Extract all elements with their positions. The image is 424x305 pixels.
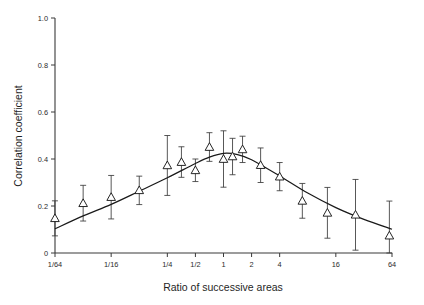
y-tick-label: 1.0	[38, 14, 48, 23]
chart-figure: 1.00.80.60.40.20 1/641/161/41/21241664 R…	[0, 0, 424, 305]
data-point-marker	[107, 193, 116, 201]
x-tick-label: 16	[332, 260, 340, 269]
data-point-marker	[177, 158, 186, 166]
error-bars-group	[52, 131, 392, 253]
x-tick-label: 1/2	[190, 260, 200, 269]
data-point-marker	[205, 143, 214, 151]
data-point-marker	[256, 161, 265, 169]
x-tick-label: 1	[221, 260, 225, 269]
y-tick-label: 0	[44, 249, 48, 258]
x-axis-title: Ratio of successive areas	[163, 281, 283, 293]
x-tick-label: 4	[278, 260, 282, 269]
x-tick-label: 64	[388, 260, 396, 269]
data-point-marker	[191, 166, 200, 174]
y-tick-label: 0.6	[38, 108, 48, 117]
x-tick-label: 1/4	[162, 260, 172, 269]
x-axis-ticks: 1/641/161/41/21241664	[48, 253, 396, 269]
y-tick-label: 0.2	[38, 202, 48, 211]
x-tick-label: 2	[250, 260, 254, 269]
data-point-marker	[163, 161, 172, 169]
y-axis-title: Correlation coefficient	[12, 85, 24, 186]
y-tick-label: 0.8	[38, 61, 48, 70]
figure-caption-partial	[10, 298, 310, 305]
x-tick-label: 1/16	[104, 260, 118, 269]
data-point-marker	[51, 214, 60, 222]
data-point-marker	[219, 155, 228, 163]
y-tick-label: 0.4	[38, 155, 48, 164]
data-markers-group	[51, 143, 394, 239]
correlation-vs-ratio-plot: 1.00.80.60.40.20 1/641/161/41/21241664 R…	[0, 0, 424, 305]
data-point-marker	[298, 197, 307, 205]
data-point-marker	[238, 145, 247, 153]
x-tick-label: 1/64	[48, 260, 62, 269]
data-point-marker	[385, 231, 394, 239]
data-point-marker	[79, 199, 88, 207]
data-point-marker	[323, 209, 332, 217]
